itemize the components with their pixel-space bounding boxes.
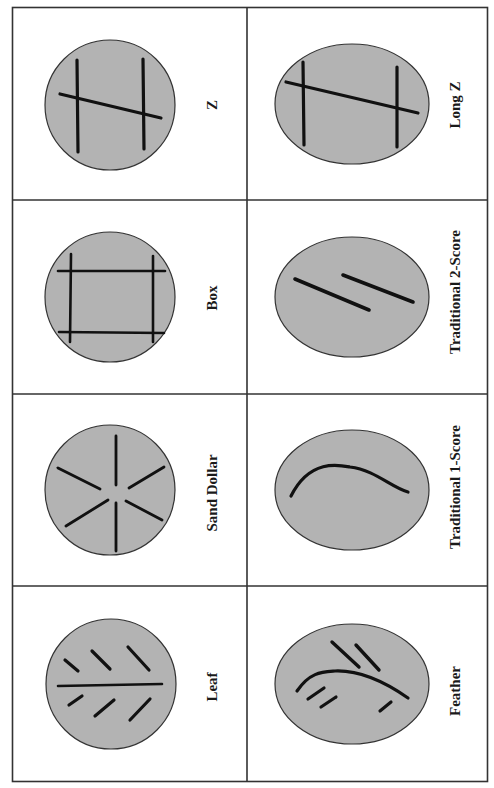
cell-traditional-1-score <box>275 430 429 550</box>
label-box: Box <box>204 285 221 310</box>
loaf-oval-icon <box>275 44 429 164</box>
cell-sand-dollar <box>45 425 175 555</box>
loaf-circle-icon <box>45 232 175 362</box>
loaf-oval-icon <box>275 237 429 357</box>
label-leaf: Leaf <box>204 672 221 701</box>
label-traditional-1-score: Traditional 1-Score <box>447 425 464 549</box>
loaf-circle-icon <box>45 425 175 555</box>
scoring-patterns-diagram: Z Long Z Box Traditional 2-Score Sand Do… <box>0 0 494 788</box>
cell-traditional-2-score <box>275 237 429 357</box>
loaf-oval-icon <box>275 624 429 744</box>
cell-leaf <box>46 619 176 749</box>
label-feather: Feather <box>447 666 464 716</box>
cell-feather <box>275 624 429 744</box>
label-sand-dollar: Sand Dollar <box>204 454 221 531</box>
cell-z <box>45 40 175 170</box>
diagram-canvas <box>0 0 494 788</box>
cell-box <box>45 232 175 362</box>
label-z: Z <box>204 100 221 110</box>
label-traditional-2-score: Traditional 2-Score <box>447 230 464 354</box>
cell-long-z <box>275 44 429 164</box>
label-long-z: Long Z <box>447 81 464 128</box>
